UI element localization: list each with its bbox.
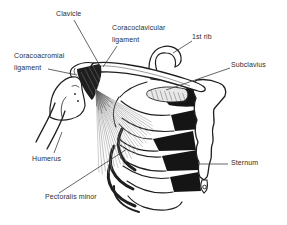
anatomy-diagram: Clavicle Coracoclavicular ligament 1st r… — [0, 0, 287, 225]
rib-cage — [108, 82, 201, 212]
label-pectoralis-minor: Pectoralis minor — [45, 193, 97, 201]
label-humerus: Humerus — [32, 155, 61, 163]
label-subclavius: Subclavius — [231, 61, 266, 69]
label-coracoclavicular-ligament: Coracoclavicular ligament — [112, 22, 165, 46]
label-clavicle: Clavicle — [56, 10, 81, 18]
leader-clavicle — [74, 20, 100, 66]
intercostal-spaces — [153, 87, 201, 192]
label-first-rib: 1st rib — [192, 33, 212, 41]
label-sternum: Sternum — [231, 159, 258, 167]
leader-pectoralis-minor — [59, 149, 127, 193]
leader-humerus — [54, 132, 62, 153]
humerus-bone — [36, 77, 85, 149]
label-coracoacromial-ligament: Coracoacromial ligament — [14, 50, 64, 74]
leader-first-rib — [173, 41, 192, 53]
